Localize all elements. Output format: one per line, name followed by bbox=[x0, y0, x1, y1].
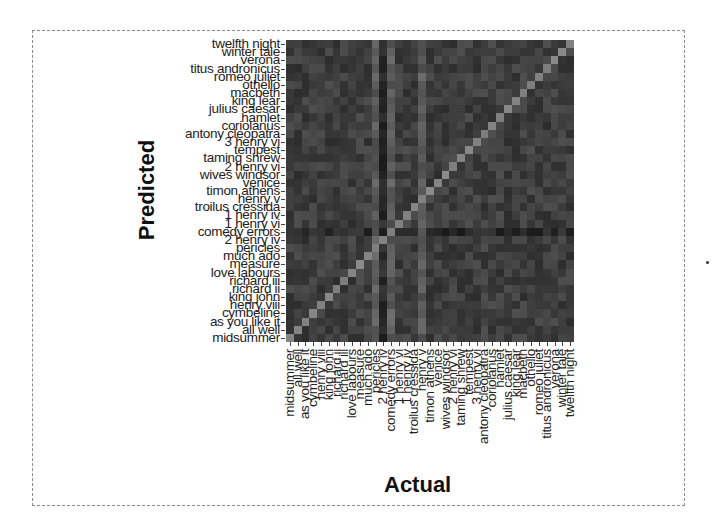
heatmap-cell bbox=[551, 285, 559, 293]
heatmap-cell bbox=[442, 252, 450, 260]
heatmap-cell bbox=[558, 138, 566, 146]
heatmap-cell bbox=[418, 301, 426, 309]
heatmap-cell bbox=[356, 293, 364, 301]
heatmap-cell bbox=[481, 48, 489, 56]
heatmap-cell bbox=[387, 89, 395, 97]
heatmap-cell bbox=[356, 64, 364, 72]
heatmap-cell bbox=[535, 73, 543, 81]
heatmap-cell bbox=[340, 277, 348, 285]
heatmap-cell bbox=[325, 187, 333, 195]
heatmap-cell bbox=[434, 171, 442, 179]
heatmap-cell bbox=[535, 130, 543, 138]
heatmap-cell bbox=[302, 293, 310, 301]
heatmap-cell bbox=[309, 138, 317, 146]
heatmap-cell bbox=[481, 154, 489, 162]
heatmap-cell bbox=[512, 285, 520, 293]
heatmap-cell bbox=[566, 285, 574, 293]
heatmap-cell bbox=[294, 293, 302, 301]
heatmap-cell bbox=[387, 81, 395, 89]
heatmap-cell bbox=[317, 301, 325, 309]
heatmap-cell bbox=[403, 260, 411, 268]
heatmap-cell bbox=[465, 130, 473, 138]
heatmap-cell bbox=[434, 73, 442, 81]
y-tick-mark bbox=[281, 330, 285, 331]
heatmap-cell bbox=[340, 73, 348, 81]
heatmap-cell bbox=[325, 334, 333, 342]
heatmap-cell bbox=[309, 334, 317, 342]
heatmap-cell bbox=[372, 334, 380, 342]
heatmap-cell bbox=[418, 195, 426, 203]
heatmap-cell bbox=[543, 301, 551, 309]
heatmap-cell bbox=[387, 179, 395, 187]
heatmap-cell bbox=[535, 309, 543, 317]
heatmap-cell bbox=[379, 260, 387, 268]
heatmap-cell bbox=[566, 113, 574, 121]
heatmap-cell bbox=[395, 105, 403, 113]
heatmap-cell bbox=[325, 236, 333, 244]
heatmap-cell bbox=[551, 318, 559, 326]
heatmap-cell bbox=[411, 187, 419, 195]
heatmap-cell bbox=[434, 334, 442, 342]
heatmap-cell bbox=[543, 113, 551, 121]
heatmap-cell bbox=[473, 244, 481, 252]
heatmap-cell bbox=[558, 89, 566, 97]
heatmap-cell bbox=[543, 334, 551, 342]
heatmap-cell bbox=[403, 154, 411, 162]
heatmap-cell bbox=[520, 285, 528, 293]
heatmap-cell bbox=[379, 130, 387, 138]
heatmap-cell bbox=[387, 97, 395, 105]
heatmap-cell bbox=[520, 105, 528, 113]
heatmap-cell bbox=[411, 236, 419, 244]
heatmap-cell bbox=[333, 89, 341, 97]
heatmap-cell bbox=[294, 171, 302, 179]
heatmap-cell bbox=[418, 130, 426, 138]
heatmap-cell bbox=[465, 260, 473, 268]
heatmap-cell bbox=[520, 301, 528, 309]
heatmap-cell bbox=[411, 244, 419, 252]
heatmap-cell bbox=[512, 309, 520, 317]
heatmap-cell bbox=[379, 285, 387, 293]
heatmap-cell bbox=[403, 277, 411, 285]
heatmap-cell bbox=[395, 138, 403, 146]
heatmap-cell bbox=[442, 171, 450, 179]
heatmap-cell bbox=[340, 89, 348, 97]
y-tick-mark bbox=[281, 313, 285, 314]
heatmap-cell bbox=[527, 244, 535, 252]
heatmap-cell bbox=[340, 40, 348, 48]
heatmap-cell bbox=[387, 220, 395, 228]
heatmap-cell bbox=[457, 40, 465, 48]
heatmap-cell bbox=[426, 146, 434, 154]
heatmap-cell bbox=[520, 187, 528, 195]
heatmap-cell bbox=[558, 56, 566, 64]
heatmap-cell bbox=[403, 73, 411, 81]
heatmap-cell bbox=[481, 309, 489, 317]
heatmap-cell bbox=[426, 187, 434, 195]
heatmap-cell bbox=[496, 154, 504, 162]
heatmap-cell bbox=[426, 48, 434, 56]
heatmap-cell bbox=[418, 171, 426, 179]
heatmap-cell bbox=[558, 64, 566, 72]
heatmap-cell bbox=[302, 154, 310, 162]
heatmap-cell bbox=[535, 138, 543, 146]
heatmap-cell bbox=[512, 326, 520, 334]
heatmap-cell bbox=[387, 154, 395, 162]
heatmap-cell bbox=[403, 211, 411, 219]
heatmap-cell bbox=[504, 97, 512, 105]
heatmap-cell bbox=[411, 260, 419, 268]
heatmap-cell bbox=[473, 326, 481, 334]
heatmap-cell bbox=[481, 236, 489, 244]
heatmap-cell bbox=[286, 252, 294, 260]
heatmap-cell bbox=[543, 309, 551, 317]
heatmap-cell bbox=[395, 122, 403, 130]
heatmap-cell bbox=[286, 40, 294, 48]
heatmap-cell bbox=[348, 56, 356, 64]
heatmap-cell bbox=[317, 179, 325, 187]
heatmap-cell bbox=[535, 162, 543, 170]
heatmap-cell bbox=[551, 203, 559, 211]
y-tick-mark bbox=[281, 281, 285, 282]
heatmap-cell bbox=[551, 277, 559, 285]
heatmap-cell bbox=[333, 228, 341, 236]
heatmap-cell bbox=[543, 64, 551, 72]
heatmap-cell bbox=[379, 326, 387, 334]
heatmap-cell bbox=[317, 236, 325, 244]
